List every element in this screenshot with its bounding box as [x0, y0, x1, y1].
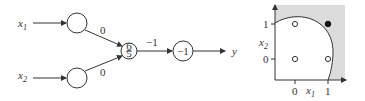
input-x2-label: x2 — [17, 69, 27, 84]
weight-1: 0 — [100, 24, 106, 36]
point-1-1 — [325, 21, 331, 27]
ylabel: x2 — [258, 36, 268, 51]
weight-2: 0 — [100, 66, 106, 78]
xlabel: x1 — [305, 84, 315, 99]
input-x1-label: x1 — [17, 17, 27, 32]
output-threshold: −1 — [177, 45, 189, 57]
point-0-0 — [292, 56, 297, 61]
xtick-label-1: 1 — [325, 85, 331, 97]
xtick-label-0: 0 — [292, 85, 298, 97]
input-node-2 — [67, 68, 87, 88]
network-diagram: x1 x2 0 0 6 5 −1 −1 y — [17, 13, 237, 88]
point-1-0 — [325, 56, 330, 61]
weight-out: −1 — [146, 36, 158, 48]
figure: x1 x2 0 0 6 5 −1 −1 y 1 0 x2 0 — [0, 0, 365, 101]
input-node-1 — [67, 13, 87, 33]
ytick-label-0: 0 — [263, 53, 269, 65]
output-y-label: y — [231, 45, 237, 57]
ytick-label-1: 1 — [263, 18, 269, 30]
point-0-1 — [292, 21, 297, 26]
hidden-threshold-den: 5 — [126, 47, 132, 59]
decision-plot: 1 0 x2 0 1 x1 — [258, 5, 346, 99]
